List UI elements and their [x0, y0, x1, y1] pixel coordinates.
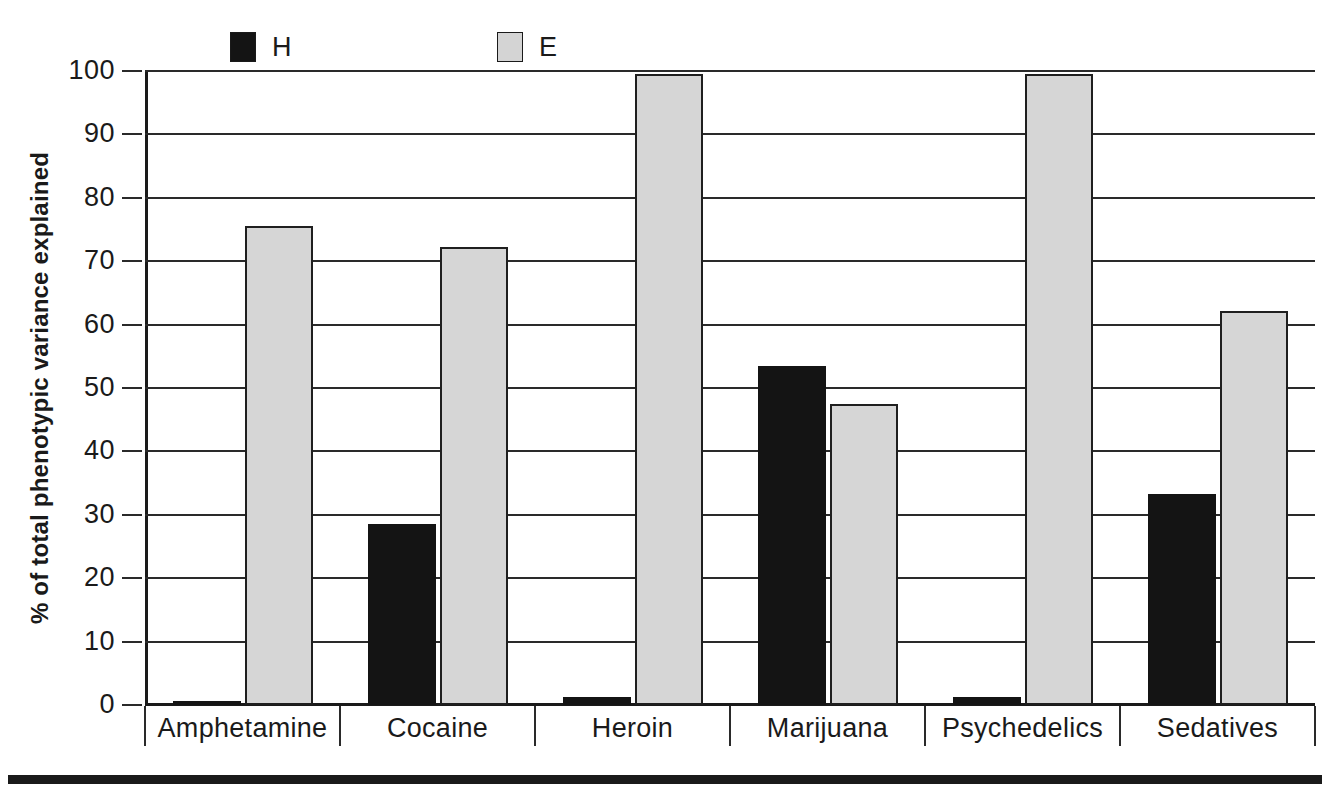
bar-group [1120, 71, 1315, 705]
y-tick-label: 20 [29, 564, 115, 591]
y-tick-label: 40 [29, 437, 115, 464]
y-tick-label: 60 [29, 311, 115, 338]
legend-label-e: E [539, 34, 558, 61]
category-label-marijuana: Marijuana [730, 710, 925, 746]
bar-amphetamine-e [245, 226, 313, 705]
bar-group [925, 71, 1120, 705]
y-tick-mark [122, 387, 142, 389]
y-tick-label: 50 [29, 374, 115, 401]
y-tick-label: 90 [29, 120, 115, 147]
bar-sedatives-h [1148, 494, 1216, 705]
chart-figure: H E % of total phenotypic variance expla… [0, 0, 1330, 805]
y-tick-mark [122, 70, 142, 72]
y-tick-mark [122, 260, 142, 262]
bar-psychedelics-h [953, 697, 1021, 705]
legend-item-h: H [230, 32, 292, 62]
legend-swatch-e-icon [497, 32, 523, 62]
y-tick-label: 70 [29, 247, 115, 274]
y-tick-label: 0 [29, 691, 115, 718]
chart-legend: H E [230, 30, 558, 64]
bar-group [340, 71, 535, 705]
legend-swatch-h-icon [230, 32, 256, 62]
y-tick-mark [122, 577, 142, 579]
bar-cocaine-h [368, 524, 436, 705]
y-tick-label: 10 [29, 628, 115, 655]
bar-heroin-e [635, 74, 703, 705]
bar-marijuana-e [830, 404, 898, 705]
bar-marijuana-h [758, 366, 826, 705]
plot-bars [145, 71, 1315, 705]
footer-rule [8, 775, 1322, 784]
bar-amphetamine-h [173, 701, 241, 705]
category-label-heroin: Heroin [535, 710, 730, 746]
legend-item-e: E [497, 32, 558, 62]
category-label-amphetamine: Amphetamine [145, 710, 340, 746]
category-label-cocaine: Cocaine [340, 710, 535, 746]
bar-group [730, 71, 925, 705]
bar-cocaine-e [440, 247, 508, 705]
y-tick-mark [122, 197, 142, 199]
bar-psychedelics-e [1025, 74, 1093, 705]
y-tick-mark [122, 450, 142, 452]
y-tick-mark [122, 324, 142, 326]
legend-label-h: H [272, 34, 292, 61]
y-tick-mark [122, 514, 142, 516]
bar-heroin-h [563, 697, 631, 705]
bar-group [535, 71, 730, 705]
y-tick-mark [122, 133, 142, 135]
category-label-psychedelics: Psychedelics [925, 710, 1120, 746]
y-tick-mark [122, 704, 142, 706]
y-tick-label: 30 [29, 501, 115, 528]
y-tick-label: 100 [29, 57, 115, 84]
category-label-sedatives: Sedatives [1120, 710, 1315, 746]
bar-group [145, 71, 340, 705]
y-tick-label: 80 [29, 184, 115, 211]
y-tick-mark [122, 641, 142, 643]
bar-sedatives-e [1220, 311, 1288, 705]
